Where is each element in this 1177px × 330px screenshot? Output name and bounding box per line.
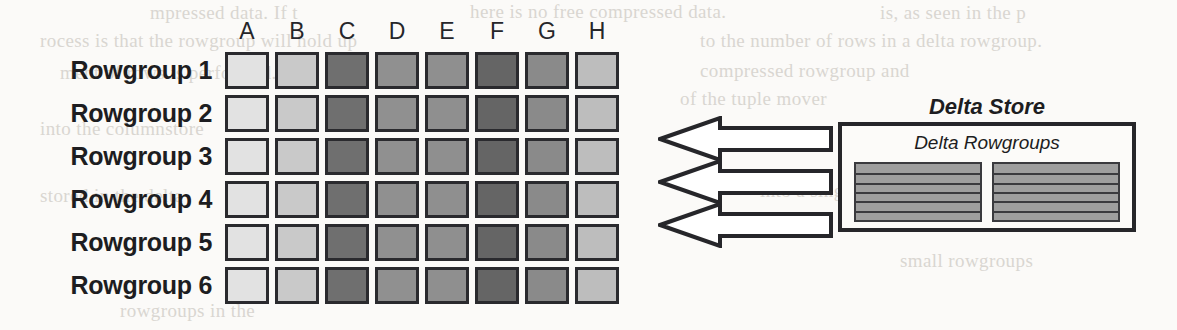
grid-cell-h1 [575, 52, 619, 89]
grid-cell-g5 [525, 224, 569, 261]
grid-cell-b3 [275, 138, 319, 175]
background-bleed-text: of the tuple mover [680, 88, 827, 110]
grid-cell-a4 [225, 181, 269, 218]
column-header-e: E [425, 18, 469, 45]
columnstore-rowgroups-diagram: mpressed data. If t here is no free comp… [0, 0, 1177, 330]
grid-cell-h6 [575, 267, 619, 304]
delta-rowgroup-stripe [856, 192, 980, 194]
row-label-rowgroup-4: Rowgroup 4 [0, 185, 212, 214]
delta-rowgroup-stripe [994, 201, 1118, 203]
delta-store-title: Delta Store [838, 94, 1136, 120]
grid-cell-e5 [425, 224, 469, 261]
background-bleed-text: compressed rowgroup and [700, 60, 910, 82]
grid-cell-e6 [425, 267, 469, 304]
grid-cell-f5 [475, 224, 519, 261]
grid-cell-c1 [325, 52, 369, 89]
grid-cell-b2 [275, 95, 319, 132]
grid-cell-h3 [575, 138, 619, 175]
column-header-b: B [275, 18, 319, 45]
grid-cell-f3 [475, 138, 519, 175]
grid-cell-a5 [225, 224, 269, 261]
delta-rowgroup-stripe [856, 173, 980, 175]
grid-cell-b1 [275, 52, 319, 89]
grid-cell-g1 [525, 52, 569, 89]
grid-cell-d3 [375, 138, 419, 175]
column-header-g: G [525, 18, 569, 45]
delta-store-arrow-3 [658, 202, 833, 252]
grid-cell-h2 [575, 95, 619, 132]
delta-store-box: Delta Rowgroups [838, 122, 1136, 232]
grid-cell-c2 [325, 95, 369, 132]
grid-cell-e2 [425, 95, 469, 132]
grid-cell-d1 [375, 52, 419, 89]
row-label-rowgroup-6: Rowgroup 6 [0, 271, 212, 300]
grid-cell-e4 [425, 181, 469, 218]
grid-cell-d5 [375, 224, 419, 261]
grid-cell-d6 [375, 267, 419, 304]
grid-cell-a1 [225, 52, 269, 89]
delta-rowgroup-stripe [994, 183, 1118, 185]
column-header-f: F [475, 18, 519, 45]
grid-cell-d4 [375, 181, 419, 218]
column-header-c: C [325, 18, 369, 45]
row-label-rowgroup-1: Rowgroup 1 [0, 56, 212, 85]
background-bleed-text: is, as seen in the p [880, 2, 1026, 24]
column-header-h: H [575, 18, 619, 45]
grid-cell-f2 [475, 95, 519, 132]
grid-cell-a2 [225, 95, 269, 132]
grid-cell-g2 [525, 95, 569, 132]
grid-cell-d2 [375, 95, 419, 132]
grid-cell-c6 [325, 267, 369, 304]
column-header-d: D [375, 18, 419, 45]
grid-cell-b6 [275, 267, 319, 304]
grid-cell-g6 [525, 267, 569, 304]
background-bleed-text: small rowgroups [900, 250, 1033, 272]
grid-cell-f1 [475, 52, 519, 89]
grid-cell-g4 [525, 181, 569, 218]
grid-cell-c3 [325, 138, 369, 175]
grid-cell-h5 [575, 224, 619, 261]
grid-cell-b4 [275, 181, 319, 218]
delta-rowgroup-stripe [856, 201, 980, 203]
grid-cell-h4 [575, 181, 619, 218]
grid-cell-c4 [325, 181, 369, 218]
row-label-rowgroup-5: Rowgroup 5 [0, 228, 212, 257]
delta-rowgroup-block [854, 162, 982, 222]
grid-cell-e1 [425, 52, 469, 89]
delta-rowgroup-stripe [994, 192, 1118, 194]
delta-rowgroup-stripe [856, 183, 980, 185]
row-label-rowgroup-2: Rowgroup 2 [0, 99, 212, 128]
delta-rowgroup-stripe [856, 211, 980, 213]
grid-cell-g3 [525, 138, 569, 175]
grid-cell-c5 [325, 224, 369, 261]
background-bleed-text: to the number of rows in a delta rowgrou… [700, 30, 1042, 52]
row-label-rowgroup-3: Rowgroup 3 [0, 142, 212, 171]
grid-cell-f4 [475, 181, 519, 218]
delta-rowgroup-block [992, 162, 1120, 222]
column-header-a: A [225, 18, 269, 45]
delta-rowgroup-stripe [994, 211, 1118, 213]
grid-cell-a3 [225, 138, 269, 175]
grid-cell-f6 [475, 267, 519, 304]
grid-cell-a6 [225, 267, 269, 304]
grid-cell-e3 [425, 138, 469, 175]
delta-rowgroups-label: Delta Rowgroups [842, 132, 1132, 154]
grid-cell-b5 [275, 224, 319, 261]
delta-rowgroup-stripe [994, 173, 1118, 175]
